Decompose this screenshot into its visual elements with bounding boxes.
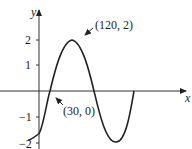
- annotation-arrow-zero: [56, 98, 63, 105]
- annotation-arrow-peak: [85, 28, 93, 35]
- y-tick-neg1: −1: [19, 110, 32, 124]
- sine-chart: x y 2 1 −1 −2 (120, 2) (30, 0): [0, 0, 192, 149]
- annotation-peak: (120, 2): [95, 18, 133, 32]
- annotation-zero: (30, 0): [63, 104, 95, 118]
- y-tick-2: 2: [25, 33, 31, 47]
- y-tick-1: 1: [25, 58, 31, 72]
- x-axis-label: x: [184, 91, 191, 105]
- y-axis-label: y: [30, 5, 37, 19]
